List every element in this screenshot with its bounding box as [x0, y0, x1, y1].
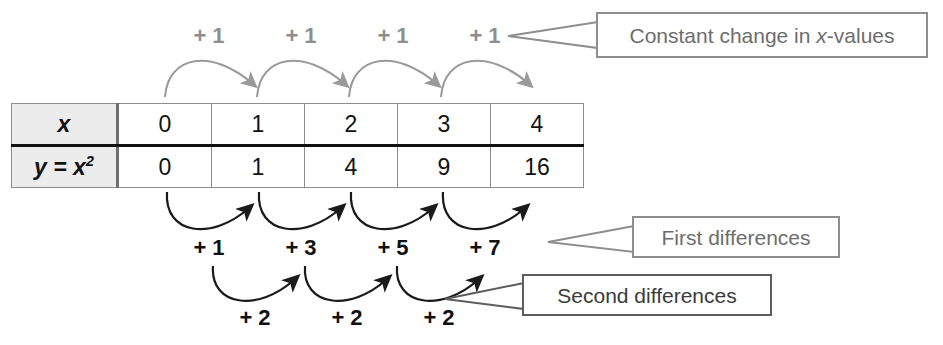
differences-table: x 0 1 2 3 4 y = x2 0 1 4 9 16: [11, 103, 584, 188]
cell-y-2: 4: [305, 146, 398, 188]
first-difference-label-1: + 1: [193, 235, 224, 261]
callout-text-italic-x: x: [816, 24, 827, 47]
cell-y-3: 9: [398, 146, 491, 188]
callout-constant-change-text: Constant change in x-values: [630, 25, 895, 46]
second-difference-arrows: [213, 266, 479, 301]
top-difference-label-4: + 1: [469, 23, 500, 49]
second-difference-label-1: + 2: [239, 305, 270, 331]
table-row-y: y = x2 0 1 4 9 16: [12, 146, 584, 188]
callout-tail-second-differences: [445, 283, 524, 309]
diagram-canvas: + 1 + 1 + 1 + 1 x 0 1 2 3 4 y = x2 0 1 4…: [0, 0, 943, 345]
callout-text-before: Constant change in: [630, 24, 817, 47]
callout-first-differences-text: First differences: [662, 227, 811, 248]
top-difference-label-2: + 1: [285, 23, 316, 49]
cell-x-2: 2: [305, 104, 398, 146]
table-row-x: x 0 1 2 3 4: [12, 104, 584, 146]
first-difference-arrows: [167, 192, 525, 229]
row-label-y-base: y = x: [34, 154, 86, 180]
row-label-x: x: [12, 104, 118, 146]
callout-text-after: -values: [827, 24, 895, 47]
second-difference-label-2: + 2: [331, 305, 362, 331]
first-difference-label-2: + 3: [285, 235, 316, 261]
callout-tail-constant-change: [508, 22, 598, 48]
row-label-y-exponent: 2: [86, 153, 94, 169]
top-difference-label-1: + 1: [193, 23, 224, 49]
second-difference-label-3: + 2: [423, 305, 454, 331]
callout-second-differences-text: Second differences: [557, 285, 736, 306]
callout-constant-change: Constant change in x-values: [596, 12, 928, 58]
callout-tail-first-differences: [548, 226, 634, 252]
callout-first-differences: First differences: [632, 216, 840, 258]
top-difference-arrows: [165, 61, 529, 97]
cell-x-1: 1: [212, 104, 305, 146]
cell-y-1: 1: [212, 146, 305, 188]
cell-x-3: 3: [398, 104, 491, 146]
cell-y-0: 0: [118, 146, 212, 188]
cell-x-4: 4: [491, 104, 584, 146]
cell-y-4: 16: [491, 146, 584, 188]
first-difference-label-4: + 7: [469, 235, 500, 261]
callout-second-differences: Second differences: [522, 274, 772, 316]
cell-x-0: 0: [118, 104, 212, 146]
first-difference-label-3: + 5: [377, 235, 408, 261]
row-label-y: y = x2: [12, 146, 118, 188]
top-difference-label-3: + 1: [377, 23, 408, 49]
